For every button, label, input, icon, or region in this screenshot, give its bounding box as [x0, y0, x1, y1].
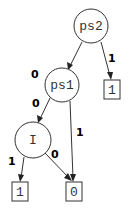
terminal-label-1-left: 1 [16, 185, 24, 200]
terminal-0: 0 [66, 182, 82, 201]
edge-I-t1-left: 1 [8, 155, 24, 182]
node-label-I: I [29, 133, 37, 148]
node-ps2: ps2 [74, 9, 108, 43]
bdd-diagram: 0 1 0 1 1 0 ps2 ps1 I 1 [0, 0, 128, 213]
edge-ps1-t0: 1 [70, 101, 84, 182]
edge-label-ps2-t1: 1 [108, 52, 116, 65]
node-label-ps1: ps1 [50, 78, 74, 93]
terminal-1-right: 1 [104, 80, 120, 99]
edge-label-ps1-t0: 1 [76, 126, 84, 139]
edge-ps1-I: 0 [32, 97, 50, 123]
terminal-label-0: 0 [70, 185, 78, 200]
edge-label-ps1-I: 0 [32, 97, 40, 110]
node-ps1: ps1 [45, 68, 79, 102]
edge-ps2-t1-right: 1 [101, 42, 116, 80]
terminal-label-1-right: 1 [108, 83, 116, 98]
edge-label-I-t0: 0 [51, 148, 59, 161]
node-label-ps2: ps2 [79, 19, 102, 34]
edge-label-I-t1: 1 [8, 155, 16, 168]
edge-I-t0: 0 [45, 148, 72, 181]
terminal-1-left: 1 [12, 182, 28, 201]
node-I: I [15, 122, 51, 158]
edge-label-ps2-ps1: 0 [31, 68, 39, 81]
